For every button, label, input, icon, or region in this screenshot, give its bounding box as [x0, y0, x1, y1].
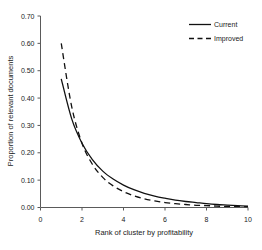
y-tick-label: 0.50	[21, 67, 35, 74]
y-tick-label: 0.60	[21, 40, 35, 47]
x-axis-title: Rank of cluster by profitability	[95, 228, 193, 237]
x-tick-label: 4	[122, 216, 126, 223]
x-tick-label: 0	[39, 216, 43, 223]
y-tick-label: 0.30	[21, 122, 35, 129]
line-chart: 0.000.100.200.300.400.500.600.70 Proport…	[0, 0, 262, 250]
chart-figure: 0.000.100.200.300.400.500.600.70 Proport…	[0, 0, 262, 250]
legend-label-current: Current	[214, 21, 237, 28]
y-tick-label: 0.00	[21, 204, 35, 211]
y-tick-label: 0.20	[21, 149, 35, 156]
x-tick-label: 2	[80, 216, 84, 223]
y-axis-title: Proportion of relevant documents	[6, 56, 15, 167]
x-tick-label: 6	[163, 216, 167, 223]
x-tick-label: 8	[205, 216, 209, 223]
y-tick-label: 0.40	[21, 95, 35, 102]
x-tick-label: 10	[244, 216, 252, 223]
y-tick-label: 0.70	[21, 13, 35, 20]
legend-label-improved: Improved	[214, 35, 243, 43]
y-tick-label: 0.10	[21, 177, 35, 184]
